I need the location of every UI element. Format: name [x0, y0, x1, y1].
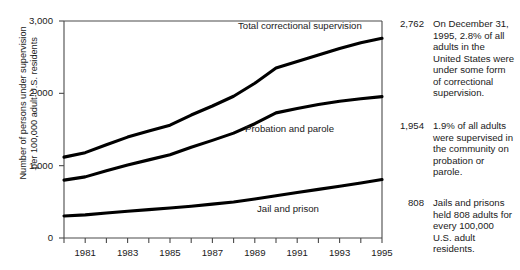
series-line-probation-and-parole	[64, 97, 382, 180]
x-tick-label: 1991	[275, 247, 319, 258]
series-label-total-correctional-supervision: Total correctional supervision	[238, 20, 362, 32]
chart-figure: Number of persons under supervision per …	[0, 0, 520, 270]
x-tick-label: 1983	[106, 247, 150, 258]
annotation-text-probation: 1.9% of all adults were supervised in th…	[433, 120, 515, 178]
y-tick-label: 0	[9, 232, 53, 243]
axes	[64, 21, 382, 238]
annotation-value-jail: 808	[388, 197, 424, 209]
x-tick-marks	[64, 238, 382, 243]
series-label-probation-text: Probation and parole	[245, 123, 334, 134]
series-label-jail-text: Jail and prison	[257, 203, 319, 214]
x-tick-label: 1985	[148, 247, 192, 258]
annotation-total-correctional-supervision: 2,762 On December 31, 1995, 2.8% of all …	[388, 18, 515, 99]
y-tick-label: 3,000	[9, 15, 53, 26]
x-tick-label: 1993	[318, 247, 362, 258]
series-label-total-text: Total correctional supervision	[238, 20, 362, 31]
series-line-jail-and-prison	[64, 180, 382, 216]
y-tick-marks	[59, 21, 64, 238]
annotation-value-total: 2,762	[388, 18, 424, 30]
x-tick-label: 1987	[190, 247, 234, 258]
annotation-value-probation: 1,954	[388, 120, 424, 132]
series-lines	[64, 38, 382, 216]
annotation-probation-and-parole: 1,954 1.9% of all adults were supervised…	[388, 120, 515, 178]
series-label-probation-and-parole: Probation and parole	[245, 123, 334, 135]
y-tick-label: 2,000	[9, 87, 53, 98]
annotation-text-total: On December 31, 1995, 2.8% of all adults…	[433, 18, 515, 99]
x-tick-label: 1989	[233, 247, 277, 258]
x-tick-label: 1981	[63, 247, 107, 258]
y-tick-label: 1,000	[9, 160, 53, 171]
annotation-text-jail: Jails and prisons held 808 adults for ev…	[433, 197, 515, 255]
annotation-jail-and-prison: 808 Jails and prisons held 808 adults fo…	[388, 197, 515, 255]
series-label-jail-and-prison: Jail and prison	[257, 203, 319, 215]
series-line-total-correctional-supervision	[64, 38, 382, 157]
